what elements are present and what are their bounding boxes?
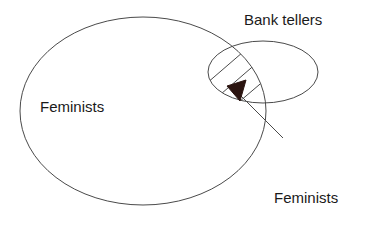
label-intersection: Feminists and bank tellers	[274, 145, 338, 228]
label-intersection-line-1: Feminists	[274, 187, 338, 208]
intersection-hatching	[186, 32, 266, 130]
label-bank-tellers: Bank tellers	[244, 10, 322, 29]
label-feminists: Feminists	[40, 97, 104, 116]
ellipse-bank-tellers	[208, 41, 318, 103]
venn-diagram-figure: Bank tellers Feminists Feminists and ban…	[0, 0, 369, 228]
